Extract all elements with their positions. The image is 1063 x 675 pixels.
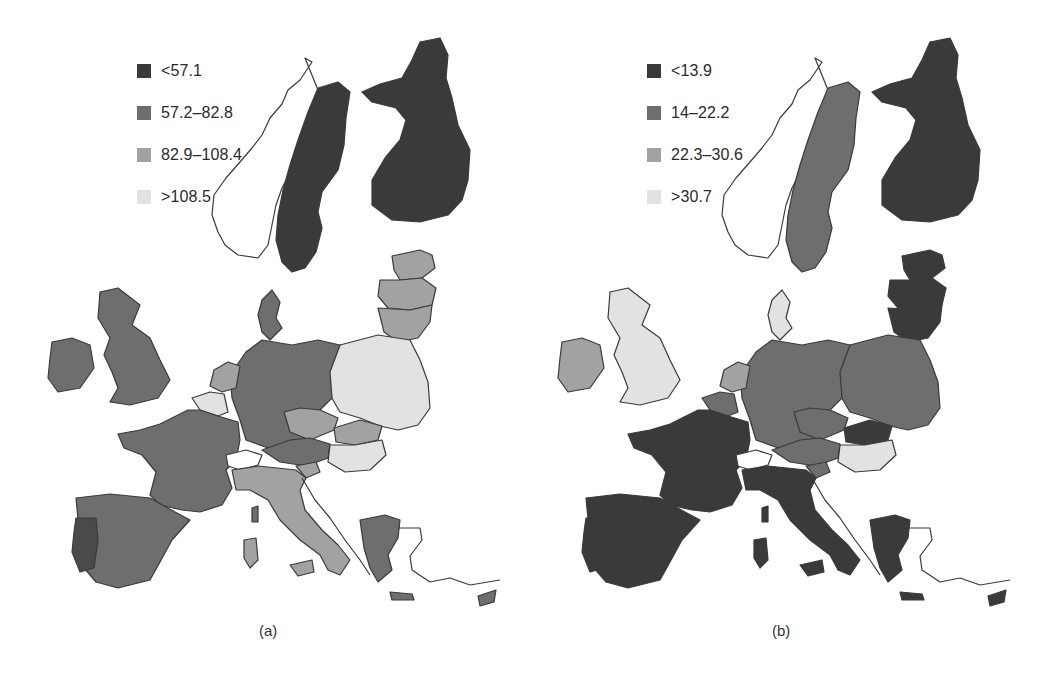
map-panel-b: <13.9 14–22.2 22.3–30.6 >30.7 (b) (510, 0, 1041, 675)
legend-swatch (647, 190, 661, 204)
legend-item: <57.1 (137, 62, 242, 80)
region-hungary (838, 440, 896, 472)
region-uk (98, 288, 170, 405)
region-finland (362, 38, 470, 222)
region-finland (872, 38, 980, 222)
legend-label: <13.9 (671, 62, 712, 80)
region-sicily (800, 560, 824, 576)
legend-swatch (647, 64, 661, 78)
region-turkey-coast (398, 528, 500, 585)
legend-swatch (647, 148, 661, 162)
region-cyprus (478, 590, 496, 606)
legend-item: >108.5 (137, 188, 242, 206)
region-uk (608, 288, 680, 405)
choropleth-map-b (510, 0, 1041, 675)
region-poland (838, 335, 940, 430)
region-sardinia (244, 538, 258, 568)
legend-label: >30.7 (671, 188, 712, 206)
region-cyprus (988, 590, 1006, 606)
region-denmark (258, 290, 282, 340)
legend-label: 57.2–82.8 (161, 104, 233, 122)
legend-item: <13.9 (647, 62, 743, 80)
region-portugal (72, 518, 98, 572)
region-corsica (252, 506, 258, 522)
legend-item: 57.2–82.8 (137, 104, 242, 122)
legend-label: 82.9–108.4 (161, 146, 242, 164)
caption-a: (a) (259, 622, 277, 639)
region-ireland (48, 338, 94, 392)
legend-label: 14–22.2 (671, 104, 730, 122)
region-greece (870, 515, 910, 582)
legend-swatch (137, 106, 151, 120)
region-ireland (558, 338, 604, 392)
region-portugal (582, 518, 608, 572)
region-denmark (768, 290, 792, 340)
caption-b: (b) (772, 622, 790, 639)
region-crete (390, 592, 414, 600)
region-sardinia (754, 538, 768, 568)
region-crete (900, 592, 924, 600)
region-estonia (902, 250, 945, 280)
legend-label: 22.3–30.6 (671, 146, 743, 164)
legend-swatch (137, 190, 151, 204)
region-latvia (378, 278, 436, 310)
legend-swatch (137, 148, 151, 162)
legend-item: 22.3–30.6 (647, 146, 743, 164)
region-netherlands (720, 362, 750, 392)
region-corsica (762, 506, 768, 522)
legend-item: >30.7 (647, 188, 743, 206)
region-greece (360, 515, 400, 582)
region-netherlands (210, 362, 240, 392)
region-turkey-coast (908, 528, 1010, 585)
region-hungary (328, 440, 386, 472)
region-sicily (290, 560, 314, 576)
choropleth-map-a (0, 0, 531, 675)
legend-swatch (137, 64, 151, 78)
legend-a: <57.1 57.2–82.8 82.9–108.4 >108.5 (137, 62, 242, 230)
map-panel-a: <57.1 57.2–82.8 82.9–108.4 >108.5 (a) (0, 0, 531, 675)
legend-b: <13.9 14–22.2 22.3–30.6 >30.7 (647, 62, 743, 230)
region-poland (328, 335, 430, 430)
legend-label: >108.5 (161, 188, 211, 206)
legend-swatch (647, 106, 661, 120)
region-estonia (392, 250, 435, 280)
region-latvia (888, 278, 946, 310)
legend-label: <57.1 (161, 62, 202, 80)
legend-item: 14–22.2 (647, 104, 743, 122)
legend-item: 82.9–108.4 (137, 146, 242, 164)
